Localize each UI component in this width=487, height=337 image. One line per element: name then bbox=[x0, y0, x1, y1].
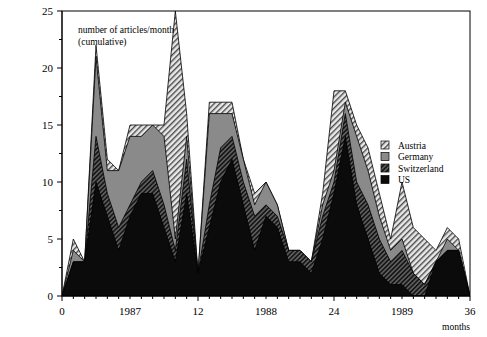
x-axis: 0122436198719881989 bbox=[59, 296, 476, 317]
articles-per-month-stacked-area-chart: 0510152025 0122436198719881989 number of… bbox=[0, 0, 487, 337]
annotation-line-2: (cumulative) bbox=[78, 37, 127, 48]
y-tick-label: 15 bbox=[42, 119, 54, 131]
legend-swatch-switzerland bbox=[381, 164, 389, 172]
annotation-line-1: number of articles/month bbox=[78, 25, 174, 35]
legend-label-germany: Germany bbox=[398, 152, 434, 162]
y-tick-label: 20 bbox=[42, 62, 54, 74]
x-tick-label: 36 bbox=[465, 305, 477, 317]
legend-label-austria: Austria bbox=[398, 141, 427, 151]
y-tick-label: 5 bbox=[48, 233, 54, 245]
x-year-label: 1989 bbox=[391, 305, 414, 317]
y-axis: 0510152025 bbox=[42, 5, 62, 302]
legend-swatch-germany bbox=[381, 153, 389, 161]
y-tick-label: 10 bbox=[42, 176, 54, 188]
x-axis-label: months bbox=[442, 322, 470, 332]
x-tick-label: 0 bbox=[59, 305, 65, 317]
x-year-label: 1987 bbox=[119, 305, 142, 317]
x-tick-label: 24 bbox=[329, 305, 341, 317]
y-tick-label: 25 bbox=[42, 5, 54, 17]
y-tick-label: 0 bbox=[48, 290, 54, 302]
x-tick-label: 12 bbox=[193, 305, 204, 317]
legend-swatch-austria bbox=[381, 141, 389, 149]
legend-label-switzerland: Switzerland bbox=[398, 164, 444, 174]
chart-container: 0510152025 0122436198719881989 number of… bbox=[0, 0, 487, 337]
legend-swatch-us bbox=[381, 176, 389, 184]
x-year-label: 1988 bbox=[255, 305, 278, 317]
legend-label-us: US bbox=[398, 175, 410, 185]
